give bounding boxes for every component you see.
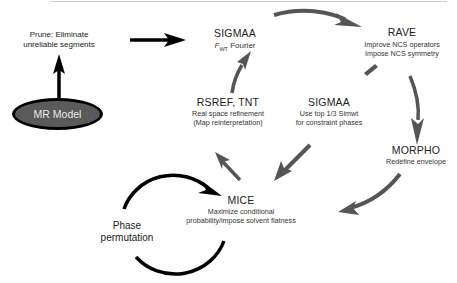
rsref-line-2: (Map reinterpretation)	[180, 118, 276, 127]
sigmaa-mid-line-2: for constraint phases	[284, 118, 374, 127]
rsref-node: RSREF, TNT Real space refinement (Map re…	[180, 96, 276, 127]
arrow-mr-to-prune-icon	[53, 54, 65, 98]
rsref-line-1: Real space refinement	[180, 109, 276, 118]
prune-label: Prune: Eliminate unreliable segments	[8, 30, 110, 50]
arrow-sigmaa-mid-to-mice-icon	[274, 145, 310, 181]
phase-line-1: Phase	[92, 220, 162, 232]
mice-line-2: probability/impose solvent flatness	[176, 216, 306, 225]
fwt-subscript: WT	[219, 46, 228, 52]
rave-title: RAVE	[352, 26, 452, 38]
arrow-prune-to-sigmaa-icon	[130, 33, 186, 47]
mr-model-node: MR Model	[12, 98, 103, 130]
arrow-rave-to-morpho-icon	[410, 76, 424, 145]
rsref-title: RSREF, TNT	[180, 96, 276, 108]
sigmaa-top-title: SIGMAA	[200, 27, 270, 39]
arrow-sigmaa-to-rave-icon	[274, 11, 362, 27]
prune-line-2: unreliable segments	[8, 40, 110, 50]
morpho-line-1: Redefine envelope	[378, 157, 454, 166]
mr-model-label: MR Model	[34, 108, 82, 120]
arrow-rsref-to-sigmaa-icon	[232, 51, 251, 93]
morpho-title: MORPHO	[378, 144, 454, 156]
sigmaa-mid-title: SIGMAA	[284, 96, 374, 108]
sigmaa-top-node: SIGMAA FWT Fourier	[200, 27, 270, 54]
sigmaa-mid-line-1: Use top 1/3 Simwt	[284, 109, 374, 118]
phase-line-2: permutation	[92, 232, 162, 244]
fwt-rest: Fourier	[228, 41, 256, 50]
mice-line-1: Maximize conditional	[176, 207, 306, 216]
rave-line-1: Improve NCS operators	[352, 40, 452, 49]
rave-line-2: Impose NCS symmetry	[352, 49, 452, 58]
arrow-morpho-to-mice-icon	[338, 174, 400, 215]
prune-line-1: Prune: Eliminate	[8, 30, 110, 40]
rave-node: RAVE Improve NCS operators Impose NCS sy…	[352, 26, 452, 58]
sigmaa-mid-node: SIGMAA Use top 1/3 Simwt for constraint …	[284, 96, 374, 127]
arrow-mice-to-rsref-icon	[215, 152, 240, 180]
morpho-node: MORPHO Redefine envelope	[378, 144, 454, 166]
phase-permutation-label: Phase permutation	[92, 220, 162, 243]
arrow-rave-to-sigmaa-mid-icon	[364, 64, 378, 76]
sigmaa-top-sub: FWT Fourier	[200, 41, 270, 54]
mice-title: MICE	[176, 194, 306, 206]
mice-node: MICE Maximize conditional probability/im…	[176, 194, 306, 225]
